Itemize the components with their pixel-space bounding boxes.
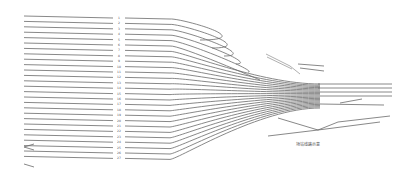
- track-line: [24, 102, 320, 132]
- track-labels: 1234567891011121314151617181920212223242…: [117, 16, 121, 160]
- track-label: 24: [117, 140, 121, 144]
- track-label: 14: [117, 86, 121, 90]
- track-label: 25: [117, 146, 121, 150]
- track-label: 22: [117, 129, 121, 133]
- track-label: 10: [117, 65, 121, 69]
- bottom-left-stubs: [24, 144, 34, 167]
- track-label: 6: [118, 43, 120, 47]
- track-line: [24, 103, 320, 138]
- track-label: 15: [117, 92, 121, 96]
- track-label: 11: [117, 70, 121, 74]
- track-label: 12: [117, 75, 121, 79]
- track-label: 23: [117, 135, 121, 139]
- track-label: 19: [117, 113, 121, 117]
- track-label: 1: [118, 16, 120, 20]
- track-label: 18: [117, 108, 121, 112]
- track-line: [24, 16, 222, 40]
- track-line: [24, 27, 233, 56]
- track-label: 4: [118, 32, 120, 36]
- track-lines: [24, 16, 320, 159]
- track-label: 26: [117, 151, 121, 155]
- track-label: 8: [118, 54, 120, 58]
- track-label: 16: [117, 97, 121, 101]
- track-label: 17: [117, 102, 121, 106]
- track-label: 2: [118, 21, 120, 25]
- track-label: 7: [118, 48, 120, 52]
- track-line: [24, 106, 320, 149]
- track-line: [24, 32, 240, 64]
- annotation-label: 场站线路示意: [296, 141, 320, 147]
- track-label: 3: [118, 27, 120, 31]
- track-label: 21: [117, 124, 121, 128]
- track-label: 20: [117, 119, 121, 123]
- track-label: 5: [118, 38, 120, 42]
- track-label: 27: [117, 156, 121, 160]
- track-label: 13: [117, 81, 121, 85]
- track-layout-diagram: 1234567891011121314151617181920212223242…: [0, 0, 414, 179]
- track-label: 9: [118, 59, 120, 63]
- track-line: [24, 86, 320, 92]
